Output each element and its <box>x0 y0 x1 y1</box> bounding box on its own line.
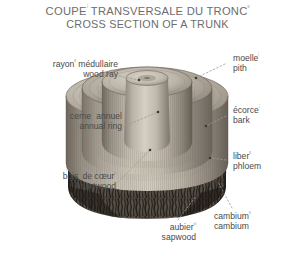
label-sapwood: aubierᵛᴵ sapwood <box>120 219 196 243</box>
label-heartwood: boisᵛ de cœurᵛ heartwood <box>6 168 116 192</box>
label-phloem: liberᴵᴵ phloem <box>233 148 291 172</box>
title-french-main: COUPE <box>46 5 87 17</box>
leader-annual-ring <box>120 112 158 128</box>
label-annual-ring: cerneᴵᵛ annuel annual ring <box>6 108 122 132</box>
label-cambium-fr: cambiumᴵᴵ <box>214 208 292 221</box>
label-heartwood-fr-main: bois <box>63 171 79 181</box>
label-bark-en: bark <box>233 115 291 126</box>
title-french-sup2: ᴵᴵ <box>248 5 250 11</box>
leader-cambium <box>218 182 232 208</box>
label-phloem-en: phloem <box>233 161 291 172</box>
label-wood-ray-fr-main: rayon <box>53 59 75 69</box>
label-heartwood-fr-mid: de cœur <box>80 171 114 181</box>
label-phloem-fr: liberᴵᴵ <box>233 148 291 161</box>
label-pith-en: pith <box>233 63 291 74</box>
label-cambium: cambiumᴵᴵ cambium <box>214 208 292 232</box>
label-phloem-fr-sup: ᴵᴵ <box>249 150 251 156</box>
leader-heartwood <box>118 150 150 182</box>
label-wood-ray-fr: rayonᴵᴵ médullaire <box>6 56 118 69</box>
label-wood-ray-fr-rest: médullaire <box>76 59 118 69</box>
label-wood-ray-en: wood ray <box>6 69 118 80</box>
label-heartwood-en: heartwood <box>6 181 116 192</box>
label-pith: moelleⁱ pith <box>233 50 291 74</box>
label-heartwood-fr: boisᵛ de cœurᵛ <box>6 168 116 181</box>
leader-endpoints <box>138 77 220 198</box>
figure-root: COUPEⁱ TRANSVERSALE DU TRONCᴵᴵ CROSS SEC… <box>0 0 295 256</box>
label-sapwood-en: sapwood <box>120 232 196 243</box>
label-phloem-fr-main: liber <box>233 151 249 161</box>
label-heartwood-fr-sup2: ᵛ <box>114 170 116 176</box>
label-cambium-en: cambium <box>214 221 292 232</box>
label-sapwood-fr-main: aubier <box>170 222 194 232</box>
pith-core <box>124 71 170 153</box>
label-bark: écorceⁱ bark <box>233 102 291 126</box>
title-french-rest: TRANSVERSALE DU TRONC <box>88 5 248 17</box>
figure-title: COUPEⁱ TRANSVERSALE DU TRONCᴵᴵ CROSS SEC… <box>0 2 295 31</box>
label-pith-fr-main: moelle <box>233 53 258 63</box>
label-pith-fr-sup: ⁱ <box>258 52 259 58</box>
label-cambium-fr-main: cambium <box>214 211 249 221</box>
title-line-english: CROSS SECTION OF A TRUNK <box>0 18 295 31</box>
label-annual-ring-fr: cerneᴵᵛ annuel <box>6 108 122 121</box>
label-bark-fr: écorceⁱ <box>233 102 291 115</box>
label-cambium-fr-sup: ᴵᴵ <box>249 210 251 216</box>
label-wood-ray: rayonᴵᴵ médullaire wood ray <box>6 56 118 80</box>
label-annual-ring-fr-rest: annuel <box>94 111 122 121</box>
label-sapwood-fr-sup: ᵛᴵ <box>194 221 196 227</box>
leader-sapwood <box>178 196 196 220</box>
label-annual-ring-en: annual ring <box>6 121 122 132</box>
leader-pith <box>196 64 225 78</box>
label-bark-fr-main: écorce <box>233 105 259 115</box>
label-sapwood-fr: aubierᵛᴵ <box>120 219 196 232</box>
label-annual-ring-fr-main: cerne <box>70 111 92 121</box>
leader-bark <box>206 116 226 126</box>
label-bark-fr-sup: ⁱ <box>259 104 260 110</box>
title-line-french: COUPEⁱ TRANSVERSALE DU TRONCᴵᴵ <box>0 2 295 18</box>
leader-phloem <box>210 158 226 160</box>
label-pith-fr: moelleⁱ <box>233 50 291 63</box>
